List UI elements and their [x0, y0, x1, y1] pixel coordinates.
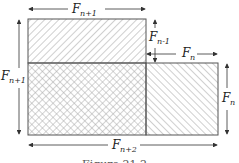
crosshatch-square — [28, 63, 146, 135]
right-height-dimension: F n — [221, 64, 235, 134]
top-width-dimension: F n+1 — [29, 2, 145, 18]
svg-text:n+1: n+1 — [80, 9, 97, 18]
figure-caption: Figure 21.2 — [82, 158, 147, 163]
svg-text:n-1: n-1 — [157, 37, 170, 46]
right-rectangle — [146, 63, 218, 135]
svg-text:n+1: n+1 — [9, 76, 26, 85]
right-width-dimension: F n — [147, 46, 217, 62]
svg-text:n+2: n+2 — [120, 145, 137, 154]
bottom-width-dimension: F n+2 — [29, 138, 217, 154]
top-rectangle — [28, 19, 146, 63]
svg-text:n: n — [190, 53, 195, 62]
fibonacci-rectangle-diagram: F n+1 F n+1 F n-1 F n F n F n+2 Figure 2… — [0, 0, 239, 163]
left-height-dimension: F n+1 — [0, 20, 26, 134]
svg-text:n: n — [230, 98, 235, 107]
notch-height-dimension: F n-1 — [148, 20, 170, 62]
